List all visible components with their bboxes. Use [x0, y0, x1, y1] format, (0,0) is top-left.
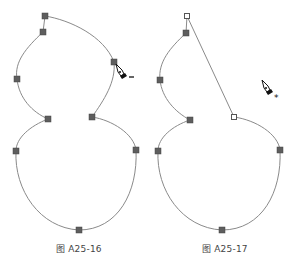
svg-text:*: * [274, 93, 279, 103]
anchor-point[interactable] [133, 147, 139, 153]
anchor-point[interactable] [89, 114, 95, 120]
anchor-point[interactable] [219, 227, 225, 233]
anchor-point[interactable] [183, 30, 189, 36]
anchor-point-selected[interactable] [185, 14, 190, 19]
figure-a25-16 [13, 13, 139, 233]
anchor-point[interactable] [157, 77, 163, 83]
diagram-canvas: * [0, 0, 299, 264]
anchor-point[interactable] [76, 227, 82, 233]
anchor-point[interactable] [40, 29, 46, 35]
anchor-point[interactable] [45, 116, 51, 122]
anchor-point[interactable] [13, 148, 19, 154]
pen-minus-icon [116, 64, 134, 79]
anchor-point[interactable] [155, 148, 161, 154]
anchor-point[interactable] [187, 117, 193, 123]
anchor-point-selected[interactable] [232, 115, 237, 120]
anchor-point[interactable] [14, 76, 20, 82]
anchor-point[interactable] [277, 147, 283, 153]
bezier-path [16, 16, 136, 230]
figure-a25-17: * [155, 14, 283, 234]
anchor-point[interactable] [42, 13, 48, 19]
pen-star-icon: * [262, 80, 279, 103]
figure-caption: 图 A25-17 [202, 242, 248, 255]
bezier-path [158, 16, 280, 230]
figure-caption: 图 A25-16 [56, 242, 102, 255]
